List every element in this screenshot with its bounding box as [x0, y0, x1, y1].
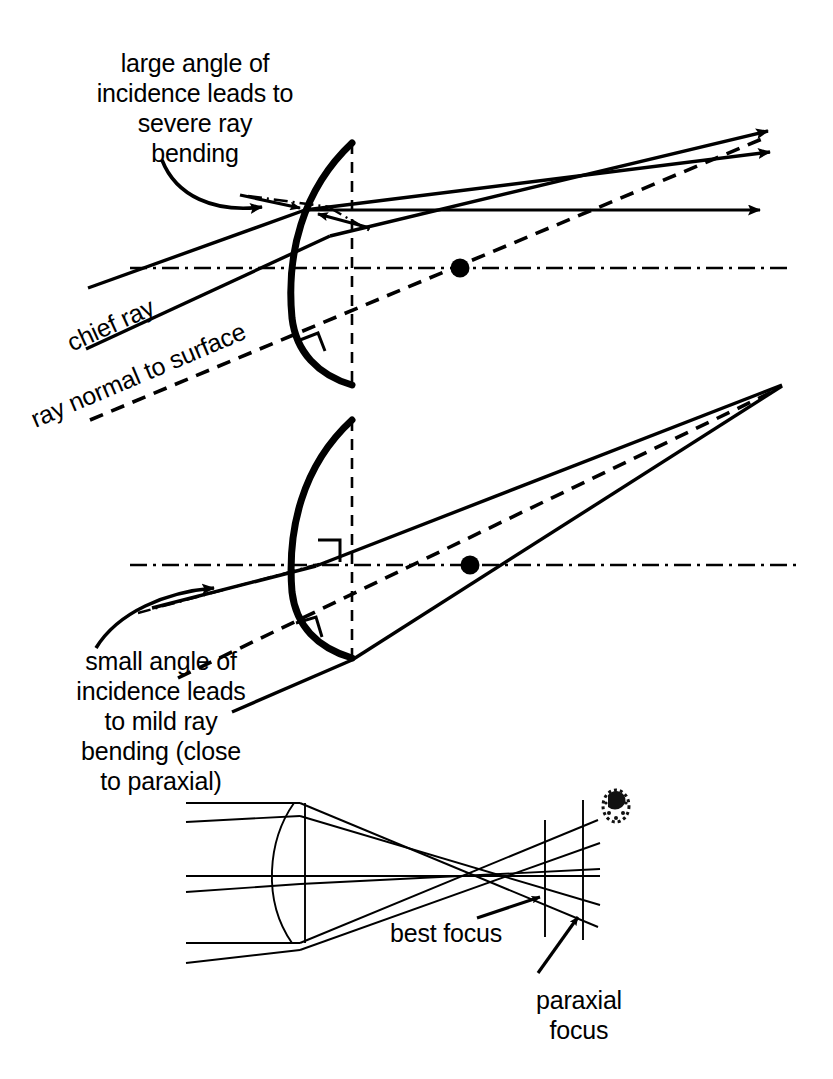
refracted-ray-upper-zonal	[300, 816, 600, 905]
upper-ray-refracted-middle	[316, 385, 782, 566]
marginal-ray-incoming-top	[88, 210, 305, 288]
incoming-ray-4	[186, 884, 300, 892]
center-of-curvature-dot-top	[451, 259, 470, 278]
ray-normal-line-middle	[178, 389, 778, 678]
paraxial-focus-label: paraxial focus	[494, 985, 664, 1045]
refracting-surface-top	[291, 143, 352, 385]
best-focus-label: best focus	[390, 918, 570, 948]
incidence-pointer-arrow-top	[240, 195, 300, 208]
figure-canvas: large angle of incidence leads to severe…	[0, 0, 833, 1079]
ray-normal-line-top	[90, 139, 762, 420]
incoming-ray-6	[186, 950, 300, 963]
refracted-ray-upper-marginal	[300, 803, 598, 927]
panel-large-angle	[86, 131, 790, 420]
center-of-curvature-dot-middle	[461, 556, 480, 575]
top-callout-label: large angle of incidence leads to severe…	[72, 48, 318, 168]
bottom-callout-label: small angle of incidence leads to mild r…	[36, 646, 286, 796]
lower-ray-refracted-middle	[352, 386, 782, 660]
scan-speckle	[603, 790, 629, 822]
marginal-ray-refracted-top	[305, 152, 770, 210]
best-focus-arrow	[477, 897, 540, 918]
chief-ray-refracted-top	[330, 131, 768, 236]
lens-front-surface	[272, 803, 294, 943]
